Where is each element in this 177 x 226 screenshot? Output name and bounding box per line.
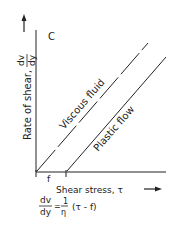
- shear-rate-diagram: C Viscous fluid Plastic flow f Shear str…: [0, 0, 177, 226]
- eq-coef-num: 1: [63, 197, 68, 206]
- viscous-fluid-label: Viscous fluid: [57, 77, 106, 132]
- f-label: f: [47, 174, 51, 184]
- plastic-flow-label: Plastic flow: [91, 104, 136, 154]
- eq-lhs-den: dy: [40, 207, 52, 217]
- eq-coef-den: η: [61, 208, 66, 217]
- y-arrow-head-icon: [22, 14, 27, 21]
- plastic-flow-line: [67, 57, 166, 171]
- x-axis-label: Shear stress, τ: [56, 185, 123, 195]
- y-axis-label: Rate of shear,: [22, 70, 33, 140]
- y-axis-symbol-den: dy: [27, 54, 37, 66]
- diagram-canvas: C Viscous fluid Plastic flow f Shear str…: [0, 0, 177, 226]
- x-arrow-head-icon: [155, 187, 162, 192]
- eq-equals: =: [54, 202, 61, 211]
- eq-rhs: (τ - f): [72, 202, 97, 212]
- y-axis-symbol-num: dv: [16, 54, 26, 66]
- eq-lhs-num: dv: [40, 195, 52, 205]
- panel-label: C: [48, 31, 55, 42]
